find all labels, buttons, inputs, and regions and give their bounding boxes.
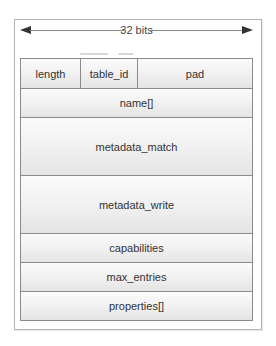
field-metadata-write: metadata_write [21, 176, 252, 233]
arrow-right-icon [242, 26, 253, 34]
field-name: name[] [21, 89, 252, 117]
struct-row: metadata_write [21, 175, 252, 233]
field-properties: properties[] [21, 292, 252, 320]
field-table-id: table_id [80, 59, 137, 88]
field-pad: pad [137, 59, 252, 88]
arrow-line-right [149, 30, 243, 31]
width-indicator: 32 bits [20, 23, 253, 39]
struct-row: metadata_match [21, 117, 252, 175]
field-metadata-match: metadata_match [21, 118, 252, 175]
decorative-mark [118, 53, 134, 55]
struct-layout-table: length table_id pad name[] metadata_matc… [20, 58, 253, 321]
decorative-mark [80, 53, 108, 55]
struct-row: length table_id pad [21, 59, 252, 88]
field-capabilities: capabilities [21, 234, 252, 262]
struct-row: name[] [21, 88, 252, 117]
struct-row: max_entries [21, 262, 252, 291]
struct-row: capabilities [21, 233, 252, 262]
field-length: length [21, 59, 80, 88]
width-label: 32 bits [120, 23, 152, 38]
arrow-line-left [30, 30, 124, 31]
struct-row: properties[] [21, 291, 252, 320]
field-max-entries: max_entries [21, 263, 252, 291]
